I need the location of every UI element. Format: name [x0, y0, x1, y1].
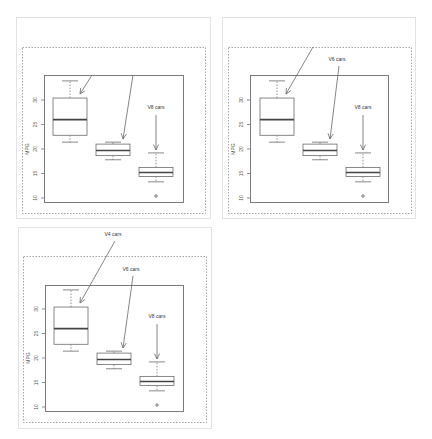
boxplot-grid: 1015202530MPGV8 cars1015202530MPGV6 cars… — [0, 0, 432, 439]
y-tick-label: 30 — [32, 97, 38, 103]
y-tick-label: 20 — [238, 146, 244, 152]
panel-frame — [19, 228, 212, 429]
y-axis-label: MPG — [25, 352, 31, 364]
y-tick-label: 25 — [32, 122, 38, 128]
y-tick-label: 10 — [33, 404, 39, 410]
y-tick-label: 30 — [33, 306, 39, 312]
boxplot-panel-1: 1015202530MPGV8 cars — [17, 18, 211, 219]
annotation-label: V8 cars — [148, 104, 165, 110]
y-axis-label: MPG — [24, 143, 30, 155]
annotation-label: V8 cars — [149, 313, 166, 319]
y-tick-label: 20 — [32, 146, 38, 152]
y-axis-label: MPG — [230, 143, 236, 155]
y-tick-label: 20 — [33, 355, 39, 361]
annotation-label: V8 cars — [355, 104, 372, 110]
annotation-label: V6 cars — [329, 56, 346, 62]
y-tick-label: 10 — [32, 195, 38, 201]
boxplot-panel-2: 1015202530MPGV6 carsV8 cars — [223, 18, 416, 219]
y-tick-label: 25 — [238, 122, 244, 128]
boxplot-panel-3: 1015202530MPGV4 carsV6 carsV8 cars — [19, 228, 212, 429]
y-tick-label: 15 — [33, 380, 39, 386]
y-tick-label: 30 — [238, 97, 244, 103]
y-tick-label: 25 — [33, 331, 39, 337]
annotation-label: V4 cars — [105, 231, 122, 237]
y-tick-label: 10 — [238, 195, 244, 201]
y-tick-label: 15 — [32, 171, 38, 177]
y-tick-label: 15 — [238, 171, 244, 177]
annotation-label: V6 cars — [123, 266, 140, 272]
